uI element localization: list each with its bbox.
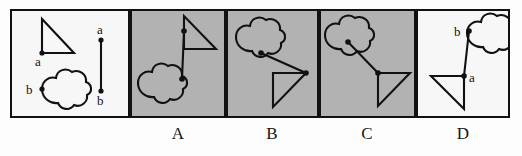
- option-b-point-on-cloud: [258, 50, 264, 56]
- option-a-graphic: [132, 11, 224, 116]
- option-a-cloud: [138, 64, 187, 103]
- option-c-point-on-cloud: [345, 39, 351, 45]
- option-label-b: B: [252, 121, 292, 147]
- option-b-triangle: [273, 73, 306, 107]
- segment-label-b: b: [97, 93, 104, 108]
- option-d-label-b: b: [454, 24, 461, 39]
- option-a-triangle: [184, 16, 216, 49]
- option-label-d: D: [443, 121, 483, 147]
- option-a-point-on-cloud: [179, 76, 185, 82]
- option-c-cloud: [325, 16, 374, 55]
- figure-root: a b a b: [0, 0, 522, 156]
- option-d-graphic: b a: [418, 11, 508, 116]
- option-label-row: A B C D: [10, 121, 510, 151]
- option-panel-a[interactable]: [130, 9, 226, 118]
- prompt-label-a: a: [35, 54, 41, 69]
- option-panel-b[interactable]: [226, 9, 319, 118]
- option-d-point-b: [466, 28, 472, 34]
- prompt-cloud-point-b: [39, 86, 44, 91]
- option-label-c: C: [347, 121, 387, 147]
- option-c-graphic: [321, 11, 414, 116]
- prompt-triangle: [42, 19, 74, 53]
- option-c-triangle: [378, 73, 410, 106]
- option-panel-c[interactable]: [319, 9, 416, 118]
- option-d-label-a: a: [469, 70, 475, 85]
- option-d-cloud: [467, 14, 508, 53]
- prompt-panel[interactable]: a b a b: [10, 9, 130, 118]
- option-c-connector: [345, 39, 381, 76]
- panel-strip: a b a b: [10, 9, 510, 118]
- option-b-graphic: [228, 11, 317, 116]
- prompt-label-b: b: [26, 82, 33, 97]
- prompt-reference-segment: [98, 37, 103, 93]
- option-d-triangle: [431, 76, 464, 109]
- option-panel-d[interactable]: b a: [416, 9, 510, 118]
- segment-endpoint-a: [98, 37, 103, 42]
- prompt-panel-graphic: a b a b: [12, 11, 128, 116]
- option-label-a: A: [158, 121, 198, 147]
- segment-label-a: a: [97, 22, 103, 37]
- prompt-cloud: [42, 70, 91, 109]
